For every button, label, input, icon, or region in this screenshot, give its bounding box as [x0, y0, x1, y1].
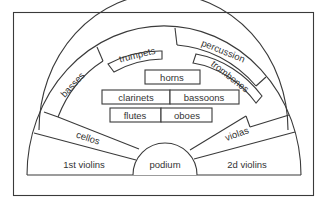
flutes-label: flutes [124, 110, 147, 121]
basses-divider-right [97, 47, 103, 61]
second-violins-label: 2d violins [227, 159, 267, 170]
basses-divider-left [44, 112, 58, 117]
first-violins-label: 1st violins [63, 159, 105, 170]
horns-label: horns [160, 72, 184, 83]
violas-top-line-2 [250, 115, 289, 127]
bassoons-label: bassoons [184, 92, 225, 103]
percussion-divider-right [256, 77, 266, 86]
cellos-label: cellos [75, 129, 102, 147]
oboes-label: oboes [174, 110, 200, 121]
percussion-divider-left [175, 28, 177, 45]
podium-label: podium [149, 159, 180, 170]
orchestra-seating-diagram: horns clarinets bassoons flutes oboes tr… [0, 0, 325, 201]
clarinets-label: clarinets [118, 92, 154, 103]
